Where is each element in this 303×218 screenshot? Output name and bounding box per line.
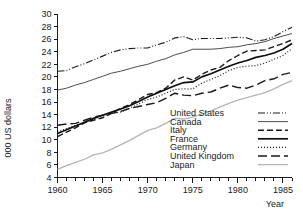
y-tick-label: 4 <box>46 173 51 183</box>
y-axis-title: 000 US dollars <box>3 98 13 158</box>
x-axis-ticks <box>58 178 293 183</box>
y-axis-ticks <box>54 14 58 178</box>
y-tick-label: 14 <box>41 110 51 120</box>
y-tick-label: 28 <box>41 22 51 32</box>
line-chart: 4681012141618202224262830 19601965197019… <box>0 0 303 218</box>
y-tick-label: 20 <box>41 72 51 82</box>
x-tick-label: 1975 <box>183 185 203 195</box>
x-tick-label: 1970 <box>138 185 158 195</box>
y-tick-label: 12 <box>41 122 51 132</box>
series-line-canada <box>58 33 293 90</box>
x-tick-label: 1960 <box>47 185 67 195</box>
y-tick-label: 30 <box>41 9 51 19</box>
y-tick-label: 18 <box>41 85 51 95</box>
x-tick-label: 1985 <box>273 185 293 195</box>
legend-label-japan: Japan <box>170 160 195 170</box>
y-tick-label: 10 <box>41 135 51 145</box>
y-tick-label: 24 <box>41 47 51 57</box>
y-tick-label: 16 <box>41 97 51 107</box>
y-tick-label: 8 <box>46 148 51 158</box>
x-axis-group: 196019651970197519801985 <box>47 178 293 195</box>
x-tick-label: 1980 <box>228 185 248 195</box>
y-tick-label: 6 <box>46 160 51 170</box>
y-axis-tick-labels: 4681012141618202224262830 <box>41 9 51 183</box>
series-line-united-states <box>58 27 293 71</box>
x-axis-title: Year <box>266 199 284 209</box>
y-axis-group: 4681012141618202224262830 <box>41 9 57 183</box>
y-tick-label: 22 <box>41 60 51 70</box>
chart-container: 4681012141618202224262830 19601965197019… <box>0 0 303 218</box>
chart-legend: United StatesCanadaItalyFranceGermanyUni… <box>170 108 288 170</box>
x-tick-label: 1965 <box>93 185 113 195</box>
y-tick-label: 26 <box>41 34 51 44</box>
x-axis-tick-labels: 196019651970197519801985 <box>47 185 293 195</box>
